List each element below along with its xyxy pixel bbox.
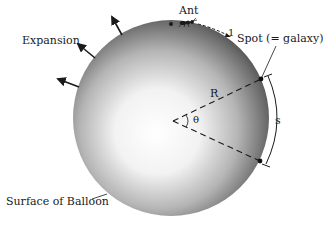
angle-label: θ: [193, 115, 199, 125]
radius-label: R: [210, 88, 218, 99]
expansion-arrow-2: [78, 44, 95, 58]
expansion-arrow-3: [58, 79, 79, 87]
spot-label: Spot (= galaxy): [237, 33, 323, 44]
balloon-diagram: Expansion Ant 1 Spot (= galaxy) R θ s Su…: [0, 0, 323, 225]
arc-length-label: s: [275, 115, 281, 126]
ant-label: Ant: [179, 5, 198, 16]
spot-galaxy-1: [259, 77, 264, 82]
expansion-label: Expansion: [22, 35, 80, 46]
surface-label: Surface of Balloon: [6, 196, 109, 207]
arc-length-tick-bottom: [262, 164, 270, 167]
ant-step-label: 1: [228, 28, 234, 38]
ant-start-dot: [169, 22, 173, 26]
expansion-arrow-1: [112, 17, 122, 35]
balloon-sphere: [73, 20, 269, 216]
spot-leader-line: [261, 46, 276, 79]
spot-galaxy-2: [258, 159, 263, 164]
